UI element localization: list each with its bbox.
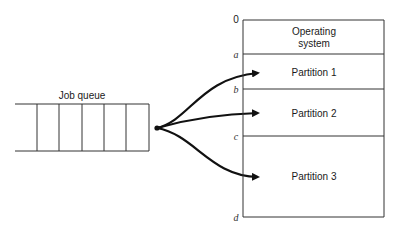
multiple-partition-diagram: Job queue 0 a b c d Operating system Par… [0, 0, 394, 231]
address-d: d [234, 212, 240, 223]
job-queue: Job queue [15, 90, 149, 151]
memory-map: 0 a b c d Operating system Partition 1 P… [233, 14, 384, 223]
os-label-line1: Operating [292, 26, 336, 37]
job-queue-label: Job queue [59, 90, 106, 101]
address-c: c [234, 131, 239, 142]
dispatch-arrows [154, 73, 258, 177]
address-0: 0 [233, 14, 239, 25]
partition-3-label: Partition 3 [291, 171, 336, 182]
address-b: b [234, 84, 239, 95]
partition-2-label: Partition 2 [291, 108, 336, 119]
address-a: a [234, 49, 239, 60]
partition-1-label: Partition 1 [291, 67, 336, 78]
os-label-line2: system [298, 38, 330, 49]
